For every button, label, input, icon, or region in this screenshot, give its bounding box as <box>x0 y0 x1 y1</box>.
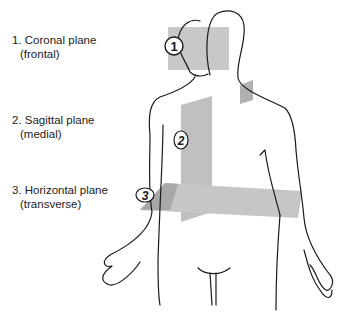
svg-text:1: 1 <box>170 39 177 54</box>
svg-text:3: 3 <box>142 189 149 203</box>
marker-1: 1 <box>165 37 183 55</box>
svg-text:2: 2 <box>177 134 185 148</box>
marker-2: 2 <box>174 131 188 149</box>
body-planes-illustration: 1 2 3 <box>0 0 346 321</box>
